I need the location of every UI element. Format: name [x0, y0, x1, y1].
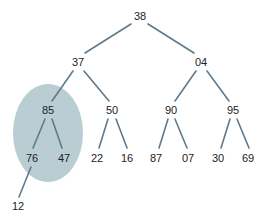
tree-node-label: 04	[195, 56, 207, 68]
tree-node-label: 50	[106, 104, 118, 116]
tree-edge	[99, 119, 108, 148]
tree-edge	[116, 119, 127, 148]
tree-edge	[159, 119, 168, 148]
tree-node-label: 85	[42, 104, 54, 116]
tree-node-label: 69	[242, 152, 254, 164]
tree-node-label: 07	[182, 152, 194, 164]
tree-node-label: 95	[227, 104, 239, 116]
tree-node-label: 38	[134, 10, 146, 22]
binary-tree-diagram: 38370485509095764722168707306912	[0, 0, 266, 217]
tree-edge	[221, 119, 230, 148]
tree-edge	[175, 71, 196, 101]
tree-edge	[175, 119, 187, 148]
tree-node-label: 87	[150, 152, 162, 164]
tree-node-label: 16	[121, 152, 133, 164]
tree-node-label: 12	[12, 200, 24, 212]
tree-edge	[85, 24, 131, 53]
highlighted-subtree	[13, 84, 83, 182]
tree-edge	[237, 119, 249, 148]
tree-node-label: 22	[91, 152, 103, 164]
tree-node-label: 30	[212, 152, 224, 164]
tree-edge	[19, 167, 31, 197]
tree-edge	[148, 24, 194, 53]
tree-node-label: 37	[72, 56, 84, 68]
tree-node-label: 47	[58, 152, 70, 164]
tree-node-label: 90	[165, 104, 177, 116]
tree-edge	[84, 71, 109, 101]
tree-edge	[207, 71, 229, 101]
tree-node-label: 76	[26, 152, 38, 164]
